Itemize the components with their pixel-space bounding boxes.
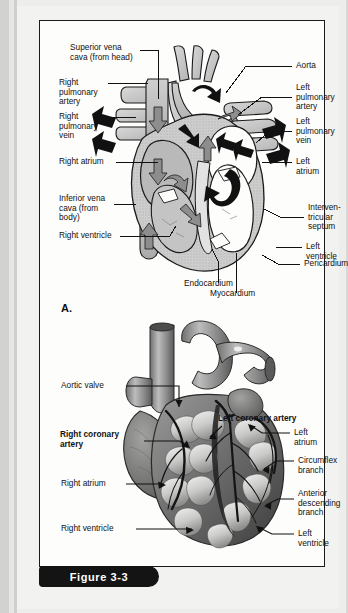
label-right-atrium: Right atrium <box>61 479 106 489</box>
label-myocardium: Myocardium <box>210 289 255 299</box>
label-right-coronary-artery: Right coronary artery <box>60 430 119 449</box>
label-superior-vena-cava: Superior vena cava (from head) <box>70 43 133 62</box>
label-left-pulmonary-artery: Left pulmonary artery <box>296 83 335 112</box>
label-anterior-descending-branch: Anterior descending branch <box>298 489 340 518</box>
label-circumflex-branch: Circumflex branch <box>298 456 337 475</box>
label-left-pulmonary-vein: Left pulmonary vein <box>296 117 335 146</box>
label-aortic-valve: Aortic valve <box>61 381 104 391</box>
panel-a-letter: A. <box>61 302 72 314</box>
label-left-coronary-artery: Left coronary artery <box>218 414 296 424</box>
label-inferior-vena-cava: Inferior vena cava (from body) <box>59 194 105 223</box>
label-right-pulmonary-vein: Right pulmonary vein <box>59 112 98 141</box>
panel-a-leader-lines <box>40 21 324 329</box>
figure-caption-text: Figure 3-3 <box>70 571 129 583</box>
figure-caption-tab: Figure 3-3 <box>39 566 159 587</box>
label-left-atrium: Left atrium <box>296 157 324 176</box>
label-left-atrium: Left atrium <box>294 428 324 447</box>
label-interventricular-septum: Interven- tricular septum <box>308 203 341 232</box>
label-aorta: Aorta <box>296 61 316 71</box>
label-pericardium: Pericardium <box>304 259 348 269</box>
paper-sheet: Superior vena cava (from head) Right pul… <box>17 6 339 609</box>
label-right-ventricle: Right ventricle <box>59 231 112 241</box>
label-left-ventricle: Left ventricle <box>298 529 329 548</box>
panel-b: Aortic valve Right coronary artery Right… <box>40 329 324 566</box>
label-right-ventricle: Right ventricle <box>61 524 114 534</box>
panel-a: Superior vena cava (from head) Right pul… <box>40 21 324 329</box>
label-right-atrium: Right atrium <box>59 157 104 167</box>
figure-content-box: Superior vena cava (from head) Right pul… <box>39 20 325 567</box>
label-right-pulmonary-artery: Right pulmonary artery <box>59 78 98 107</box>
